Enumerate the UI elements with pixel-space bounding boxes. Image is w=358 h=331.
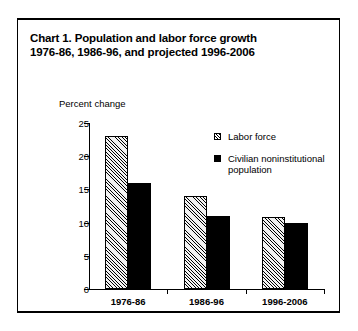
x-tick-mark bbox=[246, 289, 247, 294]
legend-swatch-solid-icon bbox=[214, 155, 221, 162]
x-axis-line bbox=[89, 289, 324, 290]
bar-civilian-noninstitutional-population-1986-96 bbox=[207, 216, 230, 289]
legend-label-population-line-2: population bbox=[228, 164, 339, 175]
y-tick-label: 15 bbox=[67, 184, 89, 195]
y-tick-label: 10 bbox=[67, 217, 89, 228]
y-tick-label: 5 bbox=[67, 250, 89, 261]
legend-label-population-line-1: Civilian noninstitutional bbox=[228, 153, 339, 164]
chart-figure: Chart 1. Population and labor force grow… bbox=[17, 18, 340, 313]
legend-swatch-hatched-icon bbox=[214, 133, 221, 140]
y-tick-label: 0 bbox=[67, 284, 89, 295]
x-category-label: 1996-2006 bbox=[246, 296, 324, 307]
legend-item-labor-force: Labor force bbox=[214, 131, 339, 142]
chart-legend: Labor force Civilian noninstitutional po… bbox=[214, 131, 339, 186]
legend-item-population: Civilian noninstitutional population bbox=[214, 153, 339, 175]
y-tick-label: 25 bbox=[67, 118, 89, 129]
bar-labor-force-1976-86 bbox=[105, 136, 128, 289]
y-axis-label: Percent change bbox=[59, 98, 126, 109]
y-axis-line bbox=[89, 123, 90, 290]
bar-civilian-noninstitutional-population-1976-86 bbox=[128, 183, 151, 289]
x-tick-mark bbox=[324, 289, 325, 294]
plot-area: Percent change 0510152025 1976-861986-96… bbox=[18, 19, 341, 314]
x-category-label: 1986-96 bbox=[167, 296, 245, 307]
bar-labor-force-1996-2006 bbox=[262, 217, 285, 289]
bar-civilian-noninstitutional-population-1996-2006 bbox=[285, 223, 308, 289]
x-category-label: 1976-86 bbox=[89, 296, 167, 307]
y-tick-label: 20 bbox=[67, 151, 89, 162]
legend-label-labor-force: Labor force bbox=[228, 131, 339, 142]
x-tick-mark bbox=[167, 289, 168, 294]
bar-labor-force-1986-96 bbox=[184, 196, 207, 289]
